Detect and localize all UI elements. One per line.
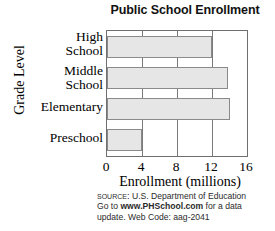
x-tick-12: 12 (204, 159, 218, 174)
footnote-goto-line: Go to www.PHSchool.com for a data (97, 201, 273, 211)
chart-title: Public School Enrollment (100, 3, 270, 18)
footnote-webcode-line: update. Web Code: aag-2041 (97, 212, 273, 222)
footnote-url[interactable]: www.PHSchool.com (120, 201, 203, 211)
chart-figure: Public School Enrollment Grade Level Hig… (0, 0, 275, 231)
bars-group (107, 31, 247, 156)
footnote-source-word: Source: (97, 190, 130, 201)
footnote-source-text: U.S. Department of Education (132, 191, 246, 201)
x-axis-title: Enrollment (millions) (90, 174, 270, 190)
category-label-high-school-line1: High (3, 30, 103, 44)
category-label-high-school-line2: School (3, 44, 103, 58)
footnote-source-line: Source: U.S. Department of Education (97, 191, 273, 201)
footnote-goto-prefix: Go to (97, 201, 118, 211)
bar-preschool (107, 129, 142, 151)
footnote-web-code: aag-2041 (173, 212, 209, 222)
footnote-goto-suffix: for a data (206, 201, 242, 211)
bar-middle-school (107, 67, 228, 89)
bar-elementary (107, 98, 230, 120)
x-tick-0: 0 (103, 159, 110, 174)
footnote: Source: U.S. Department of Education Go … (97, 191, 273, 222)
category-label-middle-school-line2: School (3, 78, 103, 92)
x-tick-16: 16 (239, 159, 253, 174)
category-label-middle-school-line1: Middle (3, 64, 103, 78)
x-tick-8: 8 (173, 159, 180, 174)
y-axis-category-labels: High School Middle School Elementary Pre… (0, 28, 103, 157)
footnote-update-text: update. Web Code: (97, 212, 171, 222)
x-axis-tick-labels: 0481216 (106, 159, 248, 175)
category-label-preschool: Preschool (3, 131, 103, 145)
x-tick-4: 4 (138, 159, 145, 174)
bar-high-school (107, 36, 212, 58)
category-label-elementary: Elementary (3, 100, 103, 114)
plot-area (106, 30, 248, 157)
